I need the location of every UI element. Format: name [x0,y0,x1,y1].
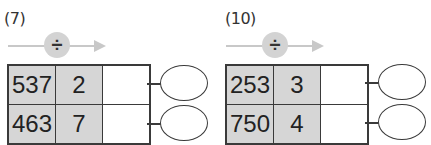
dividend-cell: 750 [226,105,274,145]
connector-line [147,123,161,125]
arrow-head-icon [94,40,106,52]
dividend-cell: 463 [8,105,56,145]
divide-icon: ÷ [262,32,288,58]
dividend-cell: 537 [8,65,56,105]
quotient-answer-box[interactable] [321,65,369,105]
quotient-answer-box[interactable] [103,65,151,105]
table-row: 253 3 [226,65,368,105]
remainder-answer-oval[interactable] [160,105,208,141]
problem-7: (7) ÷ 537 2 463 7 [0,0,215,145]
table-row: 537 2 [8,65,150,105]
divisor-cell: 4 [274,105,321,145]
remainder-answer-oval[interactable] [160,65,208,101]
connector-line [365,82,379,84]
connector-line [147,83,161,85]
remainder-answer-oval[interactable] [378,104,426,140]
division-table: 253 3 750 4 [225,64,369,145]
dividend-cell: 253 [226,65,274,105]
table-row: 750 4 [226,105,368,145]
remainder-answer-oval[interactable] [378,64,426,100]
connector-line [365,122,379,124]
quotient-answer-box[interactable] [103,105,151,145]
arrow-head-icon [312,40,324,52]
divide-icon: ÷ [44,32,70,58]
quotient-answer-box[interactable] [321,105,369,145]
division-table: 537 2 463 7 [7,64,151,145]
divisor-cell: 2 [56,65,103,105]
operation-arrow: ÷ [6,31,106,61]
operation-arrow: ÷ [224,31,324,61]
table-row: 463 7 [8,105,150,145]
problem-number: (7) [4,9,25,28]
divisor-cell: 3 [274,65,321,105]
divisor-cell: 7 [56,105,103,145]
problem-number: (10) [225,9,256,28]
problem-10: (10) ÷ 253 3 750 4 [220,0,431,145]
